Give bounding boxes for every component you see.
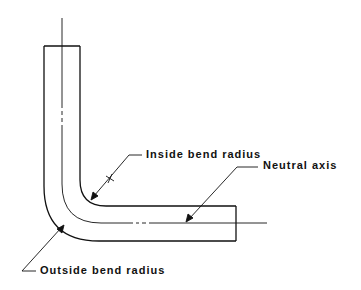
neutral-axis-leader xyxy=(186,167,258,222)
outside-bend-radius-label: Outside bend radius xyxy=(40,265,165,276)
inner-edge xyxy=(80,46,236,206)
inside-bend-radius-label: Inside bend radius xyxy=(146,149,261,160)
bend-diagram xyxy=(0,0,361,290)
neutral-axis-label: Neutral axis xyxy=(263,160,337,171)
outer-edge xyxy=(44,46,236,241)
inside-radius-leader xyxy=(91,155,142,200)
